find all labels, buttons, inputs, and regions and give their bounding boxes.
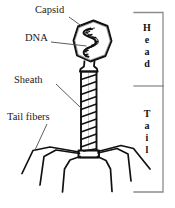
bracket-label-tail: T a i l xyxy=(137,108,157,156)
head-letter-2: e xyxy=(137,34,157,46)
head-letter-3: a xyxy=(137,46,157,58)
tail-letter-1: T xyxy=(137,108,157,120)
bracket-label-head: H e a d xyxy=(137,22,157,70)
bacteriophage-diagram: Capsid DNA Sheath Tail fibers H e a d T … xyxy=(0,0,175,208)
head-letter-4: d xyxy=(137,58,157,70)
tail-letter-3: i xyxy=(137,132,157,144)
tail-letter-2: a xyxy=(137,120,157,132)
tail-letter-4: l xyxy=(137,144,157,156)
head-letter-1: H xyxy=(137,22,157,34)
